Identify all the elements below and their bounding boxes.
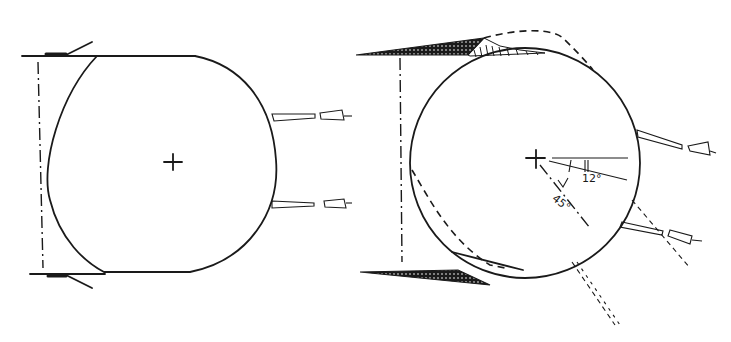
left-gun-upper [272,110,352,121]
left-centerline [38,62,43,268]
lower-chord [452,252,523,270]
angle-12-label: 12° [582,172,602,185]
diagram-canvas: 12° 45° [0,0,731,342]
right-gun-upper [637,130,716,155]
left-top-flap [66,42,92,55]
right-hull-circle [410,48,640,278]
right-panel: 12° 45° [356,31,716,325]
gun-train-line-2 [572,262,615,325]
left-panel [22,42,352,288]
angle-arrow [558,178,568,187]
left-hull-outline [47,56,276,272]
right-gun-lower [620,222,702,244]
angle-45-label: 45° [550,192,573,214]
bottom-armor-wedge [360,270,490,285]
left-bottom-flap [66,275,92,288]
left-gun-lower [272,199,352,208]
top-armor-wedge [356,38,484,55]
right-centerline [400,58,402,262]
gun-train-line-1 [632,200,690,268]
